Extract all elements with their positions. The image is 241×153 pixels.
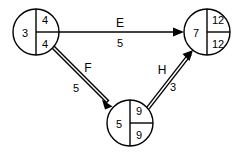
node-left-earliest-time: 4 [42,14,48,26]
edge-h-weight: 3 [170,81,176,93]
edge-e-label: E [116,16,124,30]
edge-e-arrowhead [173,28,184,37]
node-left-event-number: 3 [22,27,28,39]
node-bottom: 5 9 9 [107,100,153,146]
node-right: 7 12 12 [184,9,230,55]
edge-h-label: H [158,63,167,77]
edge-e-weight: 5 [117,37,123,49]
node-right-latest-time: 12 [212,38,224,50]
edge-h-line-inner [148,55,189,108]
edge-f-weight: 5 [73,82,79,94]
node-left: 3 4 4 [13,9,59,55]
diagram-canvas: E 5 F 5 H 3 3 4 4 [0,0,241,153]
node-bottom-event-number: 5 [116,118,122,130]
edge-f-line-inner [53,47,107,101]
edge-f: F 5 [53,47,113,110]
activity-network-diagram: E 5 F 5 H 3 3 4 4 [0,0,241,153]
edge-e: E 5 [59,16,184,49]
node-bottom-latest-time: 9 [136,129,142,141]
node-left-latest-time: 4 [42,38,48,50]
edge-h: H 3 [148,50,193,108]
node-bottom-earliest-time: 9 [136,105,142,117]
node-right-earliest-time: 12 [212,14,224,26]
node-right-event-number: 7 [193,27,199,39]
edge-f-label: F [84,61,91,75]
